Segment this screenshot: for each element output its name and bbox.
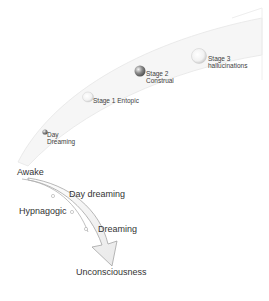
marker-day-dreaming (51, 194, 54, 197)
label-unconsciousness: Unconsciousness (76, 267, 147, 277)
label-line: Dreaming (47, 138, 75, 145)
diagram-canvas (0, 0, 269, 301)
label-awake: Awake (17, 167, 44, 177)
label-line: Stage 1 Entopic (93, 97, 139, 104)
label-stage-1: Stage 1 Entopic (93, 97, 139, 104)
label-line: Day (47, 131, 75, 138)
label-line: Construal (146, 77, 174, 84)
label-stage-2: Stage 2 Construal (146, 70, 174, 85)
label-line: Stage 3 (208, 55, 247, 62)
ball-stage-1 (83, 92, 94, 102)
label-stage-3: Stage 3 hallucinations (208, 55, 247, 70)
ball-stage-2 (135, 66, 146, 77)
label-hypnagogic: Hypnagogic (19, 206, 67, 216)
marker-dreaming (84, 227, 87, 230)
label-dreaming: Dreaming (98, 224, 137, 234)
label-line: hallucinations (208, 62, 247, 69)
label-day-dreaming: Day dreaming (69, 189, 125, 199)
marker-hypnagogic (70, 210, 73, 213)
label-day-dreaming-stage: Day Dreaming (47, 131, 75, 146)
ball-stage-3 (192, 49, 207, 64)
label-line: Stage 2 (146, 70, 174, 77)
